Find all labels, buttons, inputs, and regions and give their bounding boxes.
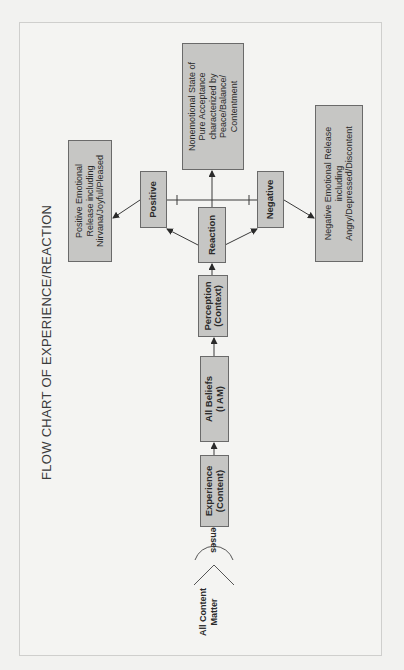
node-positive-release: Positive Emotional Release including Nir…	[68, 140, 112, 262]
source-label: All Content Matter	[198, 582, 219, 642]
node-reaction: Reaction	[198, 207, 226, 263]
node-positive: Positive	[140, 171, 167, 228]
node-all-beliefs: All Beliefs (I AM)	[200, 356, 229, 442]
flowchart-canvas: FLOW CHART OF EXPERIENCE/REACTION	[0, 0, 404, 670]
node-perception: Perception (Context)	[198, 275, 228, 337]
node-negative-release: Negative Emotional Release including Ang…	[315, 105, 363, 262]
node-nonemotional-state: Nonemotional State of Pure Acceptance ch…	[182, 43, 244, 170]
node-experience: Experience (Content)	[200, 455, 229, 527]
node-negative: Negative	[257, 171, 284, 228]
